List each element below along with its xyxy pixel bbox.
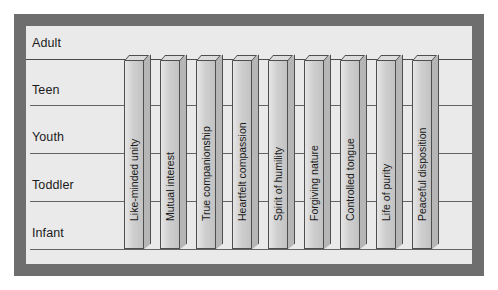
bar-9[interactable]: Peaceful disposition [412,60,432,249]
bar-side-face [324,55,331,249]
bar-7[interactable]: Controlled tongue [340,60,360,249]
bar-4[interactable]: Heartfelt compassion [232,60,252,249]
bar-front-face [412,60,432,249]
bar-side-face [432,55,439,249]
bar-side-face [360,55,367,249]
bar-front-face [304,60,324,249]
bar-side-face [144,55,151,249]
y-axis-tick-label-youth: Youth [32,130,64,144]
bar-front-face [160,60,180,249]
bar-side-face [252,55,259,249]
bar-3[interactable]: True companionship [196,60,216,249]
bar-front-face [268,60,288,249]
gridline-infant [30,249,472,250]
bar-2[interactable]: Mutual interest [160,60,180,249]
y-axis-tick-label-teen: Teen [32,83,60,97]
bar-6[interactable]: Forgiving nature [304,60,324,249]
y-axis-tick-label-infant: Infant [32,226,64,240]
bar-front-face [376,60,396,249]
bar-front-face [340,60,360,249]
bar-side-face [288,55,295,249]
bar-front-face [196,60,216,249]
bar-8[interactable]: Life of purity [376,60,396,249]
bar-side-face [396,55,403,249]
bar-front-face [232,60,252,249]
chart-figure: AdultTeenYouthToddlerInfant Like-minded … [14,14,484,276]
bar-1[interactable]: Like-minded unity [124,60,144,249]
y-axis-tick-label-toddler: Toddler [32,178,74,192]
bar-side-face [216,55,223,249]
bar-5[interactable]: Spirit of humility [268,60,288,249]
bar-front-face [124,60,144,249]
plot-area: AdultTeenYouthToddlerInfant Like-minded … [26,26,472,264]
bar-side-face [180,55,187,249]
y-axis-tick-label-adult: Adult [32,36,61,50]
